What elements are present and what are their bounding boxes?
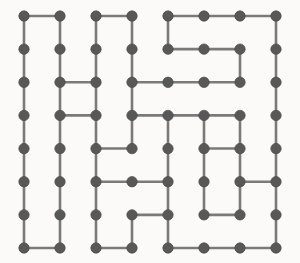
- grid-maze-diagram: [0, 0, 300, 263]
- grid-node: [199, 11, 209, 21]
- grid-node: [127, 143, 137, 153]
- grid-node: [91, 143, 101, 153]
- grid-node: [271, 243, 281, 253]
- grid-node: [19, 110, 29, 120]
- grid-node: [55, 143, 65, 153]
- grid-node: [235, 243, 245, 253]
- grid-node: [91, 210, 101, 220]
- grid-node: [235, 11, 245, 21]
- grid-node: [235, 77, 245, 87]
- grid-node: [163, 110, 173, 120]
- grid-node: [163, 243, 173, 253]
- node-layer: [19, 11, 281, 253]
- grid-node: [127, 44, 137, 54]
- grid-node: [19, 210, 29, 220]
- grid-node: [55, 110, 65, 120]
- grid-node: [163, 44, 173, 54]
- grid-node: [235, 44, 245, 54]
- grid-node: [199, 243, 209, 253]
- grid-node: [199, 44, 209, 54]
- grid-node: [19, 143, 29, 153]
- grid-node: [271, 143, 281, 153]
- grid-node: [55, 177, 65, 187]
- grid-node: [271, 210, 281, 220]
- grid-node: [235, 110, 245, 120]
- grid-node: [163, 210, 173, 220]
- grid-node: [199, 210, 209, 220]
- grid-node: [271, 177, 281, 187]
- grid-node: [127, 243, 137, 253]
- grid-node: [199, 143, 209, 153]
- grid-node: [91, 44, 101, 54]
- grid-node: [55, 210, 65, 220]
- grid-node: [127, 110, 137, 120]
- grid-node: [127, 177, 137, 187]
- grid-node: [127, 210, 137, 220]
- grid-node: [19, 243, 29, 253]
- grid-node: [163, 177, 173, 187]
- grid-node: [19, 77, 29, 87]
- grid-node: [235, 143, 245, 153]
- grid-node: [163, 11, 173, 21]
- diagram-canvas: [0, 0, 300, 263]
- grid-node: [91, 11, 101, 21]
- grid-node: [235, 177, 245, 187]
- grid-node: [271, 44, 281, 54]
- grid-node: [199, 177, 209, 187]
- grid-node: [91, 177, 101, 187]
- grid-node: [199, 110, 209, 120]
- grid-node: [91, 110, 101, 120]
- grid-node: [55, 77, 65, 87]
- grid-node: [271, 110, 281, 120]
- grid-node: [55, 243, 65, 253]
- grid-node: [55, 44, 65, 54]
- grid-node: [127, 77, 137, 87]
- grid-node: [271, 77, 281, 87]
- grid-node: [163, 143, 173, 153]
- grid-node: [163, 77, 173, 87]
- grid-node: [19, 11, 29, 21]
- grid-node: [235, 210, 245, 220]
- grid-node: [19, 44, 29, 54]
- grid-node: [271, 11, 281, 21]
- grid-node: [19, 177, 29, 187]
- grid-node: [91, 77, 101, 87]
- grid-node: [199, 77, 209, 87]
- grid-node: [55, 11, 65, 21]
- grid-node: [127, 11, 137, 21]
- grid-node: [91, 243, 101, 253]
